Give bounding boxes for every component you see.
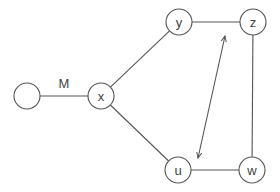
- edge-z-w: [252, 35, 253, 157]
- graph-svg: xyzuw M: [0, 0, 280, 192]
- node-label: w: [246, 163, 257, 178]
- node-label: z: [250, 15, 257, 30]
- node-x: x: [88, 83, 114, 109]
- arrows-group: [198, 36, 225, 158]
- edge-label-m: M: [59, 76, 70, 91]
- node-w: w: [239, 157, 265, 183]
- graph-diagram: xyzuw M: [0, 0, 280, 192]
- node-label: y: [176, 15, 183, 30]
- edge-x-u: [110, 105, 168, 161]
- node-label: u: [174, 163, 181, 178]
- node-unlabeled: [14, 83, 40, 109]
- node-z: z: [240, 9, 266, 35]
- edges-group: [40, 22, 253, 170]
- node-y: y: [166, 9, 192, 35]
- node-label: x: [98, 89, 105, 104]
- node-u: u: [165, 157, 191, 183]
- node-circle: [14, 83, 40, 109]
- double-headed-arrow: [198, 36, 225, 158]
- edge-x-y: [110, 31, 169, 87]
